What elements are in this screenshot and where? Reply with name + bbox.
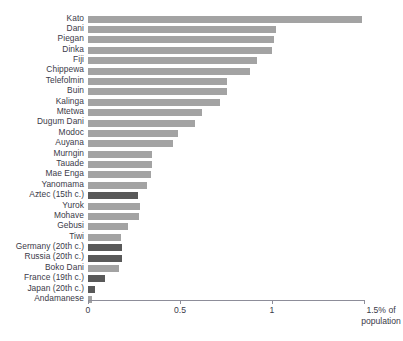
bar-category-label: Germany (20th c.) [16,241,84,251]
bar-category-label: Dinka [62,44,84,54]
x-axis-tick [88,300,89,304]
x-axis-tick [272,300,273,304]
bar [88,68,250,75]
bar [88,275,105,282]
bar [88,130,178,137]
bar-category-label: Auyana [55,137,84,147]
bar [88,161,152,168]
bar-category-label: Andamanese [34,293,84,303]
bar [88,47,272,54]
x-axis-tick [364,300,365,304]
bar-category-label: Russia (20th c.) [25,251,84,261]
bar [88,99,220,106]
x-axis-tick [180,300,181,304]
bar [88,140,173,147]
bar-category-label: Mae Enga [45,168,84,178]
bar [88,244,122,251]
x-axis-unit-label-line2: population [358,316,403,327]
bar [88,88,227,95]
bar-category-label: Modoc [59,127,84,137]
bar-category-label: Gebusi [57,220,84,230]
x-axis-tick-label: 0.5 [174,305,186,316]
x-axis-unit-label-line1: 1.5% of [358,305,403,316]
bar [88,213,139,220]
bar-category-label: Boko Dani [45,262,84,272]
bar [88,192,138,199]
x-axis-tick-label: 1 [270,305,275,316]
bar [88,255,122,262]
bar-category-label: Yurok [62,200,84,210]
bar [88,26,276,33]
chart-row: Dinka [0,45,403,55]
bar-category-label: Dani [67,23,84,33]
chart-row: Kato [0,14,403,24]
bar [88,57,257,64]
bar-category-label: Chippewa [46,64,84,74]
bar-category-label: Murngin [53,148,84,158]
bar-category-label: Tiwi [69,231,84,241]
bar [88,286,95,293]
bar-category-label: Kalinga [56,96,84,106]
bar-category-label: Kato [67,13,84,23]
chart-rows: KatoDaniPieganDinkaFijiChippewaTelefolmi… [0,14,403,305]
bar [88,151,152,158]
bar [88,78,227,85]
bar [88,234,121,241]
bar-category-label: France (19th c.) [24,272,84,282]
bar-category-label: Mohave [54,210,84,220]
x-axis-tick-label: 1.5% ofpopulation [358,305,403,327]
bar-category-label: Piegan [58,33,84,43]
bar [88,203,140,210]
bar-category-label: Telefolmin [46,75,84,85]
bar-category-label: Japan (20th c.) [27,283,84,293]
bar [88,109,202,116]
bar [88,223,128,230]
bar [88,120,195,127]
chart-row: Gebusi [0,222,403,232]
chart-row: Aztec (15th c.) [0,191,403,201]
bar [88,265,119,272]
bar-category-label: Dugum Dani [37,116,84,126]
bar [88,36,274,43]
bar [88,182,147,189]
chart-row: Piegan [0,35,403,45]
bar-category-label: Mtetwa [57,106,84,116]
bar-category-label: Aztec (15th c.) [29,189,84,199]
x-axis-tick-label: 0 [86,305,91,316]
bar-category-label: Buin [67,85,84,95]
bar-category-label: Fiji [73,54,84,64]
bar-category-label: Yanomama [41,179,84,189]
chart-row: Telefolmin [0,76,403,86]
bar-category-label: Tauade [56,158,84,168]
x-axis-line [88,300,364,301]
bar-chart: KatoDaniPieganDinkaFijiChippewaTelefolmi… [0,0,403,341]
bar [88,171,151,178]
bar [88,16,362,23]
